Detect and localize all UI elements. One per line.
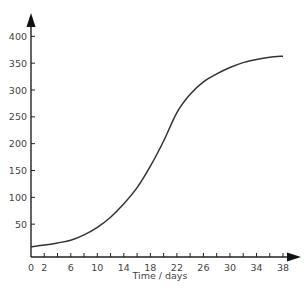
x-tick-label: 26 <box>197 262 209 273</box>
chart: 50100150200250300350400 0261014182226303… <box>0 0 305 291</box>
data-line <box>31 56 283 247</box>
y-tick-label: 250 <box>9 111 27 122</box>
x-axis-arrow-icon <box>287 253 301 262</box>
x-tick-label: 34 <box>250 262 262 273</box>
x-tick-label: 0 <box>28 262 34 273</box>
y-tick-label: 200 <box>9 138 27 149</box>
y-tick-label: 100 <box>9 192 27 203</box>
y-tick-label: 400 <box>9 31 27 42</box>
x-tick-label: 6 <box>68 262 74 273</box>
x-tick-label: 38 <box>277 262 289 273</box>
x-tick-label: 30 <box>224 262 236 273</box>
x-tick-label: 14 <box>118 262 130 273</box>
x-tick-label: 10 <box>91 262 103 273</box>
y-tick-label: 150 <box>9 165 27 176</box>
y-tick-label: 350 <box>9 58 27 69</box>
x-tick-label: 2 <box>41 262 47 273</box>
y-tick-label: 300 <box>9 85 27 96</box>
x-axis-title: Time / days <box>132 270 188 281</box>
y-axis-arrow-icon <box>27 13 36 27</box>
y-tick-label: 50 <box>15 219 27 230</box>
y-axis: 50100150200250300350400 <box>9 13 36 257</box>
